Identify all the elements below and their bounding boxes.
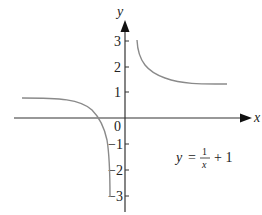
origin-label: 0 [114,119,121,134]
y-axis-label: y [115,4,124,19]
svg-text:y: y [174,150,183,165]
curve-left-branch [22,98,110,197]
x-axis-arrow-icon [240,114,252,123]
svg-text:+ 1: + 1 [214,150,232,165]
y-tick-3: 3 [114,34,121,49]
curve-right-branch [137,40,227,84]
y-tick-1: 1 [114,85,121,100]
y-axis-arrow-icon [121,20,130,32]
function-graph: 3 2 1 0 −1 −2 −3 y x y = 1 x + 1 [0,0,262,215]
x-axis-label: x [253,110,261,125]
y-tick-neg1: −1 [108,137,123,152]
equation-label: y = 1 x + 1 [174,146,232,170]
y-tick-2: 2 [114,60,121,75]
svg-text:=: = [188,150,196,165]
svg-text:x: x [201,159,207,170]
svg-text:1: 1 [202,146,207,157]
